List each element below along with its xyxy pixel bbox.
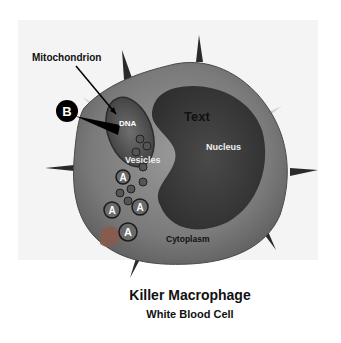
vesicle — [127, 185, 135, 193]
marker-a-1: A — [119, 172, 126, 183]
vesicle — [143, 142, 151, 150]
marker-a-4: A — [124, 226, 132, 238]
marker-a-3: A — [136, 202, 143, 213]
label-nucleus: Nucleus — [206, 142, 241, 152]
marker-a-2: A — [108, 205, 115, 216]
label-cytoplasm: Cytoplasm — [166, 234, 210, 244]
macrophage-diagram: A A A A B Mitochondrion DNA Text Nucleus… — [0, 0, 341, 343]
vesicle — [136, 135, 144, 143]
vesicle — [116, 189, 124, 197]
diagram-subtitle: White Blood Cell — [146, 308, 233, 320]
label-text: Text — [184, 109, 210, 124]
label-vesicles: Vesicles — [125, 155, 161, 165]
vesicle — [139, 178, 147, 186]
diagram-title: Killer Macrophage — [129, 287, 251, 303]
vesicle — [124, 197, 132, 205]
label-mitochondrion: Mitochondrion — [32, 52, 101, 63]
marker-b: B — [62, 104, 71, 119]
label-dna: DNA — [119, 119, 137, 128]
